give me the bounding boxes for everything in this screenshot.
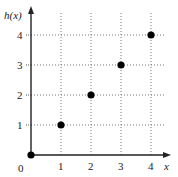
y-axis-arrow-icon [28, 6, 34, 14]
x-axis-label: x [163, 160, 169, 172]
y-tick-marks [26, 35, 31, 125]
x-tick-label: 4 [148, 160, 154, 172]
y-axis-label: h(x) [4, 9, 22, 22]
data-point [147, 31, 154, 38]
x-tick-label: 3 [118, 160, 124, 172]
grid-lines [31, 13, 166, 155]
x-tick-label: 1 [58, 160, 64, 172]
data-point [117, 61, 124, 68]
x-tick-label: 2 [88, 160, 94, 172]
axes [28, 6, 171, 158]
data-point [27, 151, 34, 158]
data-point [87, 91, 94, 98]
x-axis-arrow-icon [163, 152, 171, 158]
y-tick-label: 1 [17, 119, 23, 131]
origin-label: 0 [18, 162, 24, 174]
y-tick-label: 3 [17, 59, 23, 71]
y-tick-label: 2 [17, 89, 23, 101]
y-tick-label: 4 [17, 29, 23, 41]
data-point [57, 121, 64, 128]
chart: 12341234 h(x) x 0 [0, 0, 178, 177]
tick-labels: 12341234 [17, 29, 154, 172]
